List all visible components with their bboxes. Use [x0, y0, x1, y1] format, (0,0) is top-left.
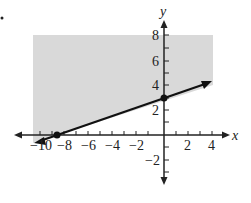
- x-tick-label-4: 4: [208, 138, 215, 153]
- x-tick-label-neg4: −4: [105, 138, 120, 153]
- y-tick-label-8: 8: [152, 28, 159, 43]
- y-tick-label-2: 2: [152, 103, 159, 118]
- x-axis-arrow-right: [222, 132, 230, 139]
- point-y-intercept: [161, 95, 168, 102]
- x-tick-label-neg2: −2: [129, 138, 144, 153]
- x-axis-label: x: [231, 128, 239, 143]
- y-axis-arrow-down: [161, 177, 168, 185]
- shaded-region: [33, 35, 213, 143]
- x-tick-label-2: 2: [184, 138, 191, 153]
- x-axis-arrow-left: [14, 132, 22, 139]
- y-tick-label-4: 4: [152, 78, 159, 93]
- bullet-marker: [1, 17, 4, 20]
- y-axis-label: y: [158, 4, 167, 19]
- x-tick-label-neg8: −8: [57, 138, 72, 153]
- y-tick-label-6: 6: [152, 54, 159, 69]
- y-tick-label-neg2: −2: [145, 153, 160, 168]
- x-tick-label-neg10: −10: [30, 138, 52, 153]
- y-axis-arrow-up: [161, 20, 168, 28]
- inequality-graph: 8 6 4 2 −2 −10 −8 −6 −4 −2 2 4 x y: [0, 0, 251, 203]
- x-tick-label-neg6: −6: [81, 138, 96, 153]
